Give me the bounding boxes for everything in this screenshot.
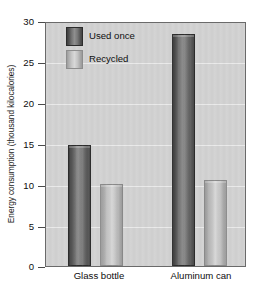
y-tick-label-15: 15 [0,139,34,150]
x-tick-label-aluminum-can: Aluminum can [155,270,247,281]
y-tick-label-0: 0 [0,261,34,272]
y-tick-label-5: 5 [0,221,34,232]
y-tick-label-20: 20 [0,98,34,109]
bar-chart: Energy consumption (thousand kilocalorie… [0,0,256,292]
y-tick-label-25: 25 [0,57,34,68]
bar-glass-bottle-used-once [68,145,91,266]
bar-aluminum-can-recycled [204,180,227,266]
bar-aluminum-can-used-once [172,34,195,266]
y-tick-mark-0 [38,267,45,268]
y-tick-mark-30 [38,22,45,23]
legend-swatch-used-once [66,27,83,46]
legend-swatch-recycled [66,50,83,69]
y-tick-mark-20 [38,104,45,105]
y-tick-label-10: 10 [0,180,34,191]
x-tick-label-glass-bottle: Glass bottle [53,270,145,281]
legend-label-used-once: Used once [89,30,135,41]
y-tick-mark-5 [38,227,45,228]
bar-glass-bottle-recycled [100,184,123,266]
y-tick-mark-15 [38,145,45,146]
y-tick-label-30: 30 [0,16,34,27]
y-tick-mark-25 [38,63,45,64]
gridline-20 [46,104,245,105]
y-tick-mark-10 [38,186,45,187]
legend-label-recycled: Recycled [89,53,128,64]
